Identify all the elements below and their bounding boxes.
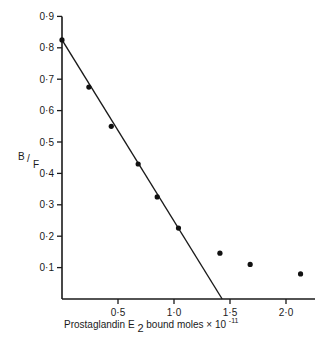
regression-line [62,40,222,299]
y-tick-label: 0·1 [40,262,55,273]
x-axis-ticks: 0·51·01·52·0 [111,299,294,318]
y-axis-title-numerator: B [18,151,25,162]
y-axis-title-slash: / [27,153,30,164]
x-tick-label: 2·0 [279,307,294,318]
x-axis-title: Prostaglandin E 2 bound moles × 10 -11 [64,317,239,334]
y-tick-label: 0·3 [40,199,55,210]
data-point [109,124,114,129]
y-tick-label: 0·7 [40,74,55,85]
data-point [217,251,222,256]
y-tick-label: 0·4 [40,168,55,179]
x-axis-title-main: Prostaglandin E [64,319,135,330]
x-tick-label: 0·5 [111,307,126,318]
y-axis-title-denominator: F [33,159,39,170]
data-points [59,37,303,276]
y-tick-label: 0·2 [40,231,55,242]
data-point [155,194,160,199]
data-point [86,84,91,89]
y-tick-label: 0·5 [40,137,55,148]
x-axis-title-subscript: 2 [137,322,143,334]
axes [62,16,315,299]
scatchard-plot: 0·10·20·30·40·50·60·70·80·9 0·51·01·52·0… [0,0,330,348]
data-point [136,161,141,166]
y-tick-label: 0·6 [40,105,55,116]
x-axis-title-superscript: -11 [229,317,239,324]
x-tick-label: 1·0 [167,307,182,318]
y-tick-label: 0·9 [40,11,55,22]
data-point [59,37,64,42]
data-point [298,271,303,276]
data-point [248,262,253,267]
y-tick-label: 0·8 [40,42,55,53]
x-axis-title-rest: bound moles × 10 [146,319,226,330]
fit-line [62,40,222,299]
y-axis-title: B / F [18,151,39,170]
y-axis-ticks: 0·10·20·30·40·50·60·70·80·9 [40,11,62,273]
svg-text:Prostaglandin E 2: Prostaglandin E 2 bound moles × 10 -11 [64,317,239,334]
data-point [176,225,181,230]
